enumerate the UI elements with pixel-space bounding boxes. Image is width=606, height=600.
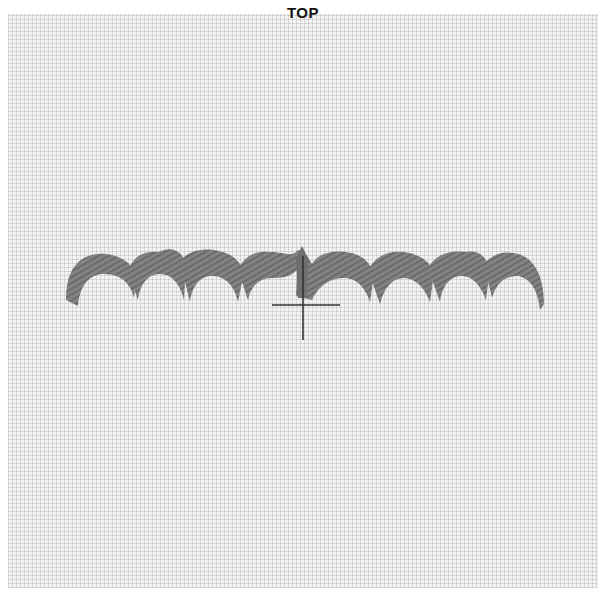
scallop-embroidery	[0, 0, 606, 600]
orientation-label-top: TOP	[0, 4, 606, 21]
